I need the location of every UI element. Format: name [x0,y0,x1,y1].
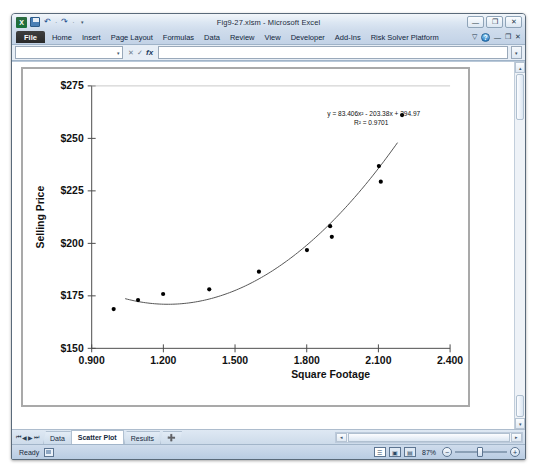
cancel-formula-icon[interactable]: ✕ [128,49,134,57]
vertical-scroll-track[interactable] [515,121,525,394]
quick-access-toolbar: X ↶ · ↷ · ▾ [14,17,88,28]
horizontal-scroll-track[interactable]: ◂ ▸ [335,432,523,443]
ribbon-tab-review[interactable]: Review [225,30,260,44]
formula-bar-buttons: ✕ ✓ fx [125,48,156,57]
close-workbook-icon[interactable]: ✕ [515,33,521,41]
ribbon-tab-formulas[interactable]: Formulas [158,30,199,44]
data-point[interactable] [377,164,381,168]
ribbon-tab-strip: File Home Insert Page Layout Formulas Da… [12,30,525,45]
y-tick-label: $150 [60,343,83,354]
zoom-level-label[interactable]: 87% [419,449,439,456]
data-point[interactable] [161,292,165,296]
zoom-slider[interactable] [455,447,507,457]
insert-worksheet-icon[interactable]: ➕ [160,431,182,444]
ribbon-tab-file[interactable]: File [16,31,45,43]
enter-formula-icon[interactable]: ✓ [137,49,143,57]
excel-logo-icon[interactable]: X [16,17,27,28]
excel-window: X ↶ · ↷ · ▾ Fig9-27.xlsm - Microsoft Exc… [11,13,526,460]
x-tick-label: 2.100 [365,355,391,366]
data-point[interactable] [379,180,383,184]
chart-object[interactable]: $150$175$200$225$250$275 0.9001.2001.500… [21,67,470,407]
save-icon[interactable] [29,17,40,28]
help-icon[interactable]: ? [481,33,490,42]
name-box[interactable]: ▾ [15,46,123,59]
ribbon-right-controls: ▽ ? — ❐ ✕ [472,30,525,44]
zoom-in-button[interactable]: + [510,447,520,457]
ribbon-tab-add-ins[interactable]: Add-Ins [330,30,366,44]
ribbon-tab-risk-solver-platform[interactable]: Risk Solver Platform [366,30,444,44]
x-tick-label: 0.900 [79,355,105,366]
window-controls: — ❐ ✕ [467,16,523,28]
sheet-nav-buttons: ⏮ ◀ ▶ ⏭ [12,430,43,444]
nav-next-sheet-icon[interactable]: ▶ [28,434,33,441]
worksheet-area: $150$175$200$225$250$275 0.9001.2001.500… [12,61,525,429]
sheet-tab-filler [182,430,335,444]
ribbon-tab-insert[interactable]: Insert [77,30,106,44]
trendline-r-squared: R² = 0.9701 [354,119,389,126]
ribbon-tab-home[interactable]: Home [47,30,77,44]
status-bar: Ready ☰ ▣ ▤ 87% − + [12,444,525,459]
horizontal-scroll-thumb[interactable] [348,433,510,442]
nav-last-sheet-icon[interactable]: ⏭ [34,434,39,441]
zoom-slider-handle[interactable] [477,447,483,457]
sheet-tab-data[interactable]: Data [43,431,71,444]
ribbon-tab-page-layout[interactable]: Page Layout [106,30,158,44]
sheet-tab-bar: ⏮ ◀ ▶ ⏭ Data Scatter Plot Results ➕ ◂ ▸ [12,429,525,444]
scroll-left-icon[interactable]: ◂ [336,433,347,442]
x-axis-title: Square Footage [291,369,370,380]
data-point[interactable] [328,224,332,228]
y-tick-label: $175 [60,290,83,301]
minimize-ribbon-icon[interactable]: — [494,34,501,41]
qat-customize-dropdown-icon[interactable]: ▾ [77,17,88,28]
x-tick-label: 1.500 [222,355,248,366]
vertical-scroll-thumb[interactable] [516,74,524,120]
window-title: Fig9-27.xlsm - Microsoft Excel [12,18,525,27]
x-tick-label: 2.400 [437,355,463,366]
data-point[interactable] [330,235,334,239]
formula-input[interactable] [158,46,508,59]
y-tick-label: $225 [60,185,83,196]
sheet-tab-results[interactable]: Results [124,431,160,444]
vertical-split-handle[interactable] [516,395,524,417]
name-box-dropdown-icon[interactable]: ▾ [117,50,120,56]
ribbon-tab-developer[interactable]: Developer [286,30,330,44]
horizontal-scrollbar[interactable]: ◂ ▸ [335,430,525,444]
view-page-layout-icon[interactable]: ▣ [389,447,401,457]
title-bar: X ↶ · ↷ · ▾ Fig9-27.xlsm - Microsoft Exc… [12,14,525,30]
nav-prev-sheet-icon[interactable]: ◀ [22,434,27,441]
scroll-right-icon[interactable]: ▸ [511,433,522,442]
sheet-tab-scatter-plot[interactable]: Scatter Plot [71,430,124,444]
status-text: Ready [15,449,44,456]
x-tick-label: 1.200 [150,355,176,366]
data-point[interactable] [207,287,211,291]
data-point[interactable] [136,298,140,302]
record-macro-icon[interactable] [44,448,54,457]
nav-first-sheet-icon[interactable]: ⏮ [16,434,21,441]
redo-icon[interactable]: ↷ [59,17,70,28]
ribbon-tab-view[interactable]: View [260,30,286,44]
trendline-equation: y = 83.406x² - 203.38x + 294.97 [327,110,420,118]
vertical-scrollbar[interactable]: ▴ ▾ [514,62,525,429]
scroll-up-icon[interactable]: ▴ [515,62,525,73]
worksheet-canvas[interactable]: $150$175$200$225$250$275 0.9001.2001.500… [12,62,514,429]
collapse-ribbon-icon[interactable]: ▽ [472,33,477,41]
view-page-break-icon[interactable]: ▤ [404,447,416,457]
scroll-down-icon[interactable]: ▾ [515,418,525,429]
data-point[interactable] [112,307,116,311]
restore-workbook-icon[interactable]: ❐ [505,33,511,41]
undo-icon[interactable]: ↶ [42,17,53,28]
y-tick-label: $250 [60,133,83,144]
zoom-out-button[interactable]: − [442,447,452,457]
minimize-button[interactable]: — [467,16,484,28]
status-bar-right: ☰ ▣ ▤ 87% − + [374,447,522,457]
close-button[interactable]: ✕ [505,16,522,28]
data-point[interactable] [257,270,261,274]
expand-formula-bar-icon[interactable]: ▾ [511,46,522,59]
view-normal-icon[interactable]: ☰ [374,447,386,457]
data-point[interactable] [305,248,309,252]
insert-function-icon[interactable]: fx [146,48,153,57]
y-axis-title: Selling Price [35,186,46,249]
restore-button[interactable]: ❐ [486,16,503,28]
ribbon-tab-data[interactable]: Data [199,30,225,44]
x-tick-label: 1.800 [294,355,320,366]
